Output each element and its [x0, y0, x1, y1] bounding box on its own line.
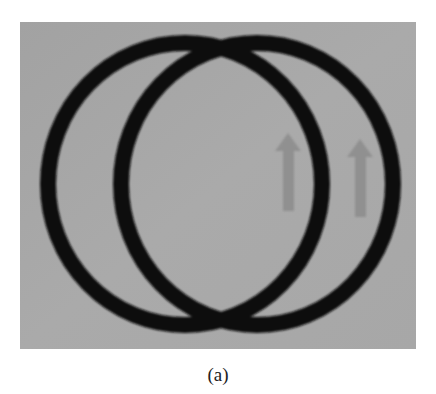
figure-image [0, 0, 436, 394]
figure-caption: (a) [0, 364, 436, 386]
figure-panel-a: (a) [0, 0, 436, 394]
